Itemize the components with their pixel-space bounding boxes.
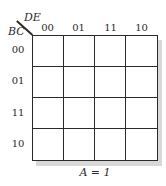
kmap-cell	[95, 36, 126, 67]
column-label: 10	[126, 22, 157, 33]
kmap-cell	[33, 36, 64, 67]
row-label: 10	[8, 138, 28, 149]
kmap-cell	[64, 98, 95, 129]
kmap-cell	[64, 36, 95, 67]
kmap-cell	[33, 129, 64, 160]
column-label: 00	[32, 22, 63, 33]
kmap-cell	[64, 129, 95, 160]
kmap-cell	[126, 98, 157, 129]
row-label: 01	[8, 75, 28, 86]
kmap-cell	[95, 98, 126, 129]
row-label: 00	[8, 44, 28, 55]
kmap-cell	[126, 129, 157, 160]
kmap-cell	[126, 67, 157, 98]
kmap-cell	[64, 67, 95, 98]
kmap-cell	[95, 67, 126, 98]
kmap-cell	[95, 129, 126, 160]
column-label: 11	[95, 22, 126, 33]
kmap-cell	[33, 67, 64, 98]
row-label: 11	[8, 107, 28, 118]
row-variable-label: BC	[8, 25, 25, 38]
kmap-cell	[126, 36, 157, 67]
column-label: 01	[63, 22, 94, 33]
kmap-cell	[33, 98, 64, 129]
map-caption: A = 1	[32, 166, 158, 179]
kmap-grid	[32, 35, 158, 161]
